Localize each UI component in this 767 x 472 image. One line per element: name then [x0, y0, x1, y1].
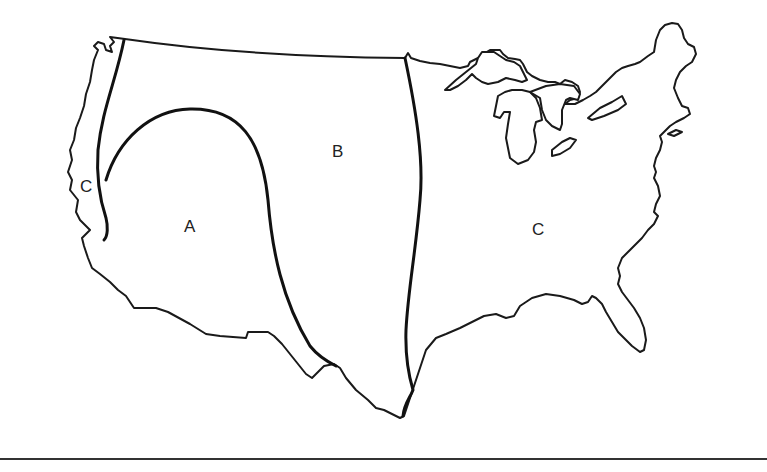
us-outline	[68, 23, 696, 418]
long-island	[668, 130, 682, 136]
region-label-c-east: C	[532, 221, 544, 238]
region-label-a: A	[184, 218, 195, 235]
region-label-c-west: C	[80, 178, 92, 195]
horizontal-divider	[0, 458, 767, 460]
region-label-b: B	[332, 143, 343, 160]
us-region-map	[0, 0, 767, 472]
